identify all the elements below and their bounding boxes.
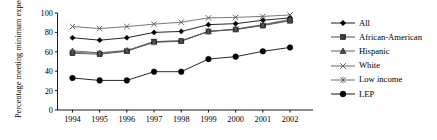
y-tick-label: 40 [45,67,53,76]
legend-marker-diamond-icon [330,16,356,30]
x-tick-label: 1995 [91,115,108,124]
legend-item-all: All [330,16,436,30]
legend-item-hispanic: Hispanic [330,44,436,58]
x-tick-label: 2000 [227,115,244,124]
legend-item-low-income: Low income [330,73,436,87]
x-tick-label: 2002 [282,115,299,124]
legend-label-hispanic: Hispanic [356,47,390,56]
y-tick-label: 0 [49,106,53,115]
legend-marker-triangle-icon [330,44,356,58]
legend-label-low-income: Low income [356,75,402,84]
legend-item-lep: LEP [330,87,436,101]
y-tick-label: 80 [45,28,53,37]
legend-marker-square-icon [330,30,356,44]
legend-label-lep: LEP [356,90,374,99]
legend-marker-x-icon [330,59,356,73]
legend-marker-asterisk-icon [330,73,356,87]
x-tick-label: 1998 [173,115,190,124]
x-tick-label: 1996 [119,115,136,124]
legend-label-white: White [356,61,380,70]
y-tick-label: 100 [41,9,53,18]
legend-label-all: All [356,19,370,28]
y-tick-label: 60 [45,48,53,57]
x-tick-label: 1999 [200,115,217,124]
x-tick-label: 1994 [64,115,81,124]
legend-item-white: White [330,59,436,73]
legend-item-african-american: African-American [330,30,436,44]
y-tick-label: 20 [45,87,53,96]
x-tick-label: 2001 [255,115,272,124]
series-markers-lep [70,45,293,84]
x-tick-label: 1997 [146,115,163,124]
series-line-hispanic [72,19,290,52]
line-chart: Percentage meeting minimum expectations … [0,0,437,140]
legend-label-african-american: African-American [356,33,422,42]
chart-legend: All African-American Hispanic White Low … [330,16,436,101]
legend-marker-circle-icon [330,87,356,101]
series-markers-low-income [70,17,293,56]
